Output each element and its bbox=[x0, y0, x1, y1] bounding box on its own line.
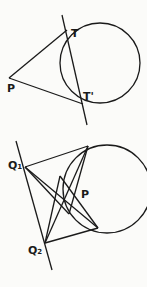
label-Q2-subscript: 2 bbox=[37, 248, 42, 256]
tangent-Q2-bottom bbox=[45, 228, 98, 243]
label-Q2: Q2 bbox=[28, 245, 42, 256]
tangent-Q1-top bbox=[25, 146, 88, 167]
label-P-bottom: P bbox=[81, 189, 89, 200]
chord-through-P bbox=[60, 176, 98, 228]
label-Q1-subscript: 1 bbox=[17, 163, 22, 171]
label-Q2-main: Q bbox=[28, 244, 37, 257]
label-Q1-main: Q bbox=[8, 159, 17, 172]
label-Q1: Q1 bbox=[8, 160, 22, 171]
geometry-figure: T T' P Q1 Q2 P bbox=[0, 0, 147, 287]
figure-svg bbox=[0, 0, 147, 287]
label-T: T bbox=[71, 28, 79, 39]
label-T-prime: T' bbox=[83, 91, 94, 102]
label-P-top: P bbox=[7, 83, 15, 94]
tangent-PT bbox=[9, 30, 67, 78]
